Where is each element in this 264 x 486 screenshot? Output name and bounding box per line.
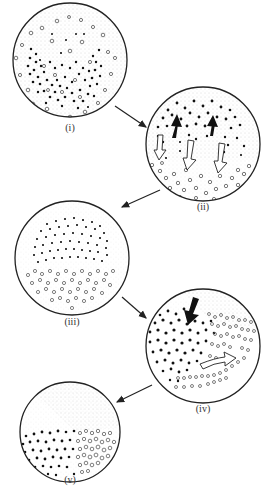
- panel-label-v: (v): [64, 474, 76, 485]
- arrow-ii-to-iii: [122, 190, 160, 207]
- arrow-i-to-ii: [115, 106, 146, 127]
- panel-iv: [146, 289, 262, 403]
- panel-iii: [15, 201, 129, 315]
- panel-label-iv: (iv): [196, 403, 210, 414]
- arrow-iii-to-iv: [122, 297, 146, 318]
- panel-label-ii: (ii): [197, 201, 209, 212]
- diagram-canvas: [0, 0, 264, 486]
- panel-ii: [146, 87, 260, 210]
- panel-v: [20, 382, 120, 482]
- arrow-iv-to-v: [117, 385, 152, 402]
- panel-label-i: (i): [65, 122, 74, 133]
- panel-i: [13, 3, 127, 119]
- panel-label-iii: (iii): [65, 316, 80, 327]
